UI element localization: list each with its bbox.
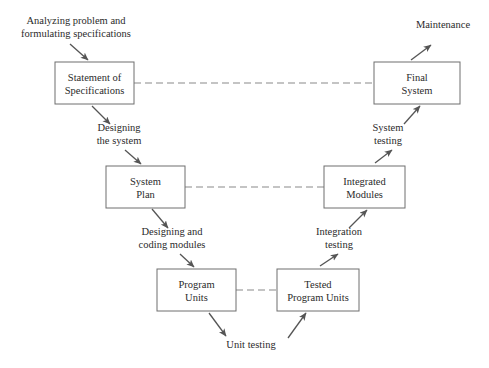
arrow-designing-to-plan — [125, 150, 141, 164]
box-outline-system_plan — [106, 166, 185, 208]
annotation-line2-system_testing: testing — [374, 135, 403, 146]
annotation-analyzing: Analyzing problem andformulating specifi… — [21, 15, 131, 39]
annotation-designing_coding: Designing andcoding modules — [139, 226, 206, 250]
annotation-system_testing: Systemtesting — [373, 122, 404, 146]
box-label-line2-final_system: System — [402, 85, 433, 96]
box-label-line2-program_units: Units — [185, 292, 208, 303]
annotation-line1-system_testing: System — [373, 122, 404, 133]
arrow-systemtest-to-final — [404, 106, 420, 124]
annotation-designing_system: Designingthe system — [97, 122, 142, 146]
box-label-line1-tested_program_units: Tested — [304, 279, 332, 290]
annotation-unit_testing: Unit testing — [226, 339, 276, 350]
box-label-line1-final_system: Final — [406, 72, 428, 83]
arrow-tested-to-integration — [320, 254, 338, 266]
box-program_units[interactable]: ProgramUnits — [157, 269, 236, 311]
annotation-line1-analyzing: Analyzing problem and — [26, 15, 126, 26]
box-final_system[interactable]: FinalSystem — [374, 62, 460, 104]
arrow-unittest-to-tested — [288, 313, 306, 338]
lifecycle-diagram: Statement ofSpecificationsFinalSystemSys… — [0, 0, 489, 368]
box-statement[interactable]: Statement ofSpecifications — [55, 62, 134, 104]
annotation-line2-designing_coding: coding modules — [139, 239, 206, 250]
box-label-line1-program_units: Program — [178, 279, 214, 290]
box-integrated_modules[interactable]: IntegratedModules — [324, 166, 405, 208]
arrow-units-to-unittest — [209, 313, 226, 336]
annotation-maintenance: Maintenance — [416, 19, 471, 30]
box-outline-final_system — [374, 62, 460, 104]
annotation-integration_testing: Integrationtesting — [316, 226, 363, 250]
box-label-line1-statement: Statement of — [68, 72, 122, 83]
box-outline-statement — [55, 62, 134, 104]
annotation-line1-unit_testing: Unit testing — [226, 339, 276, 350]
box-label-line2-tested_program_units: Program Units — [287, 292, 349, 303]
box-outline-integrated_modules — [324, 166, 405, 208]
annotation-line2-analyzing: formulating specifications — [21, 28, 131, 39]
annotation-line1-maintenance: Maintenance — [416, 19, 471, 30]
annotation-line1-integration_testing: Integration — [316, 226, 363, 237]
box-system_plan[interactable]: SystemPlan — [106, 166, 185, 208]
annotation-line1-designing_coding: Designing and — [142, 226, 204, 237]
arrow-final-to-maintenance — [411, 45, 431, 60]
arrow-coding-to-units — [180, 254, 194, 267]
box-label-line1-integrated_modules: Integrated — [343, 176, 386, 187]
arrow-analyzing-to-statement — [70, 44, 88, 60]
annotation-line2-designing_system: the system — [97, 135, 142, 146]
box-label-line1-system_plan: System — [130, 176, 161, 187]
box-label-line2-statement: Specifications — [65, 85, 124, 96]
box-label-line2-system_plan: Plan — [136, 189, 155, 200]
box-tested_program_units[interactable]: TestedProgram Units — [277, 269, 359, 311]
diagram-canvas: Statement ofSpecificationsFinalSystemSys… — [0, 0, 489, 368]
box-outline-program_units — [157, 269, 236, 311]
box-label-line2-integrated_modules: Modules — [346, 189, 383, 200]
annotation-line2-integration_testing: testing — [325, 239, 354, 250]
annotation-line1-designing_system: Designing — [97, 122, 141, 133]
box-outline-tested_program_units — [277, 269, 359, 311]
arrow-integrated-to-systemtest — [375, 150, 392, 163]
